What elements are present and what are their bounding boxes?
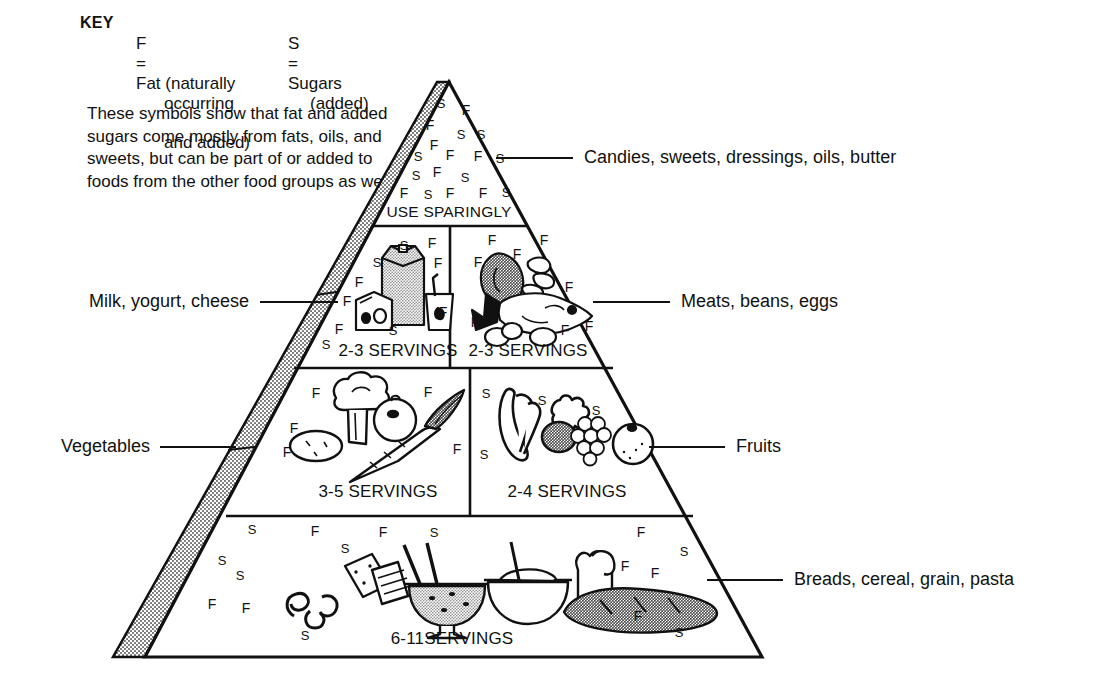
label-milk-yogurt-cheese: Milk, yogurt, cheese xyxy=(89,291,249,312)
caption-meat-servings: 2-3 SERVINGS xyxy=(468,341,587,361)
caption-fruits-servings: 2-4 SERVINGS xyxy=(507,482,626,502)
caption-vegetables-servings: 3-5 SERVINGS xyxy=(318,482,437,502)
label-candies-sweets: Candies, sweets, dressings, oils, butter xyxy=(584,147,896,168)
label-vegetables: Vegetables xyxy=(61,436,150,457)
pyramid-outline xyxy=(145,82,762,657)
label-meats-beans-eggs: Meats, beans, eggs xyxy=(681,291,838,312)
label-fruits: Fruits xyxy=(736,436,781,457)
label-breads-cereal-grain-pasta: Breads, cereal, grain, pasta xyxy=(794,569,1014,590)
caption-milk-servings: 2-3 SERVINGS xyxy=(338,341,457,361)
caption-breads-servings: 6-11SERVINGS xyxy=(391,629,514,649)
food-guide-pyramid-page: KEY F = Fat (naturally occurring and add… xyxy=(0,0,1093,690)
caption-use-sparingly: USE SPARINGLY xyxy=(386,203,511,221)
